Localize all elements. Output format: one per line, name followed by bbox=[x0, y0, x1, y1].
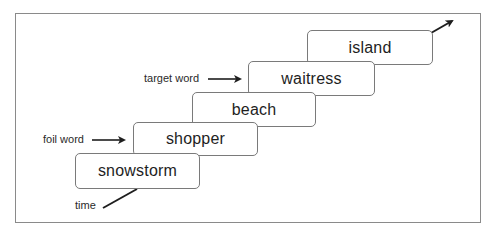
word-label: shopper bbox=[166, 130, 225, 148]
word-box-shopper-foil: shopper bbox=[133, 122, 258, 156]
word-label: waitress bbox=[281, 70, 341, 88]
word-label: snowstorm bbox=[98, 162, 177, 180]
word-label: beach bbox=[232, 101, 277, 119]
time-arrow-end bbox=[431, 21, 452, 33]
word-label: island bbox=[348, 39, 391, 57]
time-label: time bbox=[75, 199, 96, 211]
target-word-label: target word bbox=[144, 72, 199, 84]
time-line-start bbox=[103, 189, 137, 208]
word-box-waitress-target: waitress bbox=[248, 61, 375, 96]
foil-word-label: foil word bbox=[43, 133, 84, 145]
word-box-island: island bbox=[307, 30, 433, 65]
word-box-snowstorm: snowstorm bbox=[75, 153, 200, 189]
